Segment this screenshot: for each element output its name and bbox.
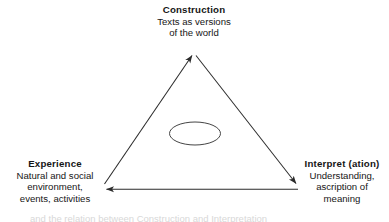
edge-experience-to-construction [105, 56, 193, 185]
node-experience-title: Experience [0, 158, 110, 170]
node-interpret: Interpret (ation) Understanding, ascript… [295, 158, 389, 204]
node-interpret-title: Interpret (ation) [295, 158, 389, 170]
node-construction-line-1: Texts as versions [124, 16, 264, 28]
node-construction: Construction Texts as versions of the wo… [124, 4, 264, 39]
node-construction-title: Construction [124, 4, 264, 16]
node-interpret-line-3: meaning [295, 193, 389, 205]
center-ellipse [170, 122, 221, 145]
node-construction-line-2: of the world [124, 27, 264, 39]
node-experience-line-2: environment, [0, 181, 110, 193]
node-experience-line-3: events, activities [0, 193, 110, 205]
edge-construction-to-interpret [196, 56, 296, 184]
node-interpret-line-2: ascription of [295, 181, 389, 193]
node-interpret-line-1: Understanding, [295, 170, 389, 182]
node-experience: Experience Natural and social environmen… [0, 158, 110, 204]
diagram-canvas: Construction Texts as versions of the wo… [0, 0, 389, 222]
node-experience-line-1: Natural and social [0, 170, 110, 182]
caption-partial: and the relation between Construction an… [30, 213, 310, 222]
